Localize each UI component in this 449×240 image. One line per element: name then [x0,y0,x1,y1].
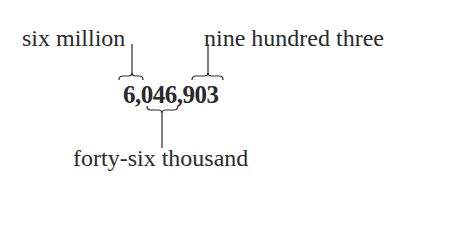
brace-ones [192,73,223,80]
number-value: 6,046,903 [123,82,219,107]
brace-millions [119,73,143,80]
label-forty-six-thousand: forty-six thousand [73,146,248,170]
